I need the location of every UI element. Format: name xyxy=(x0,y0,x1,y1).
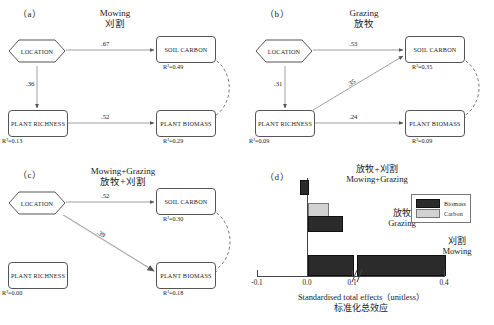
panel-a-soil-carbon-label: SOIL CARBON xyxy=(164,46,207,53)
panel-a-plant-richness-label: PLANT RICHNESS xyxy=(11,120,65,127)
panel-b-node-plant-richness: PLANT RICHNESS xyxy=(255,110,315,137)
panel-d-tick-1 xyxy=(307,270,308,276)
panel-a-location-label: LOCATION xyxy=(21,48,54,55)
panel-b-node-plant-biomass: PLANT BIOMASS xyxy=(405,110,465,137)
panel-d-bar-chart: （d） 放牧+刈割 Mowing+Grazing 放牧 Grazing 刈割 M… xyxy=(247,158,494,325)
panel-c-soil-carbon-label: SOIL CARBON xyxy=(164,198,207,205)
panel-c-edges xyxy=(0,158,247,325)
panel-c-path-location-soil-carbon: .52 xyxy=(101,192,110,199)
panel-a-plant-biomass-label: PLANT BIOMASS xyxy=(160,120,211,127)
panel-b-grazing: （b） Grazing 放牧 LOCATION PLANT RICHNESS xyxy=(247,0,494,158)
panel-d-tick-3 xyxy=(444,270,445,276)
panel-d-ticklabel-1: 0.0 xyxy=(288,279,326,287)
panel-a-r2-plant-biomass: R²=0.29 xyxy=(163,137,183,144)
panel-d-ticklabel-2: 0.1 xyxy=(333,279,371,287)
panel-a-mowing: （a） Mowing 刈割 LOCATION PLANT RICHNESS R xyxy=(0,0,247,158)
panel-a-r2-soil-carbon: R²=0.49 xyxy=(163,63,183,70)
panel-b-node-soil-carbon: SOIL CARBON xyxy=(405,36,465,63)
panel-b-location-label: LOCATION xyxy=(268,48,301,55)
panel-b-path-richness-biomass: .24 xyxy=(349,113,358,120)
panel-d-group-label-en-0: Mowing+Grazing xyxy=(307,174,447,184)
panel-c-r2-soil-carbon: R²=0.30 xyxy=(163,215,183,222)
panel-d-ticklabel-3: 0.4 xyxy=(425,279,463,287)
panel-b-plant-biomass-label: PLANT BIOMASS xyxy=(409,120,460,127)
panel-d-bar-biomass-mowing-grazing xyxy=(300,180,309,195)
panel-d-xlabel-cn: 标准化总效应 xyxy=(247,303,475,314)
panel-b-soil-carbon-label: SOIL CARBON xyxy=(413,46,456,53)
panel-d-bar-biomass-mowing-right xyxy=(357,255,446,276)
panel-c-node-plant-biomass: PLANT BIOMASS xyxy=(156,262,216,289)
legend-label-carbon: Carbon xyxy=(444,211,463,217)
panel-c-location-label: LOCATION xyxy=(21,200,54,207)
legend-swatch-carbon-icon xyxy=(416,209,440,218)
panel-b-r2-plant-richness: R²=0.09 xyxy=(249,137,269,144)
panel-a-node-soil-carbon: SOIL CARBON xyxy=(156,36,216,63)
legend-label-biomass: Biomass xyxy=(444,201,466,207)
panel-b-path-location-soil-carbon: .53 xyxy=(349,40,358,47)
legend-swatch-biomass-icon xyxy=(416,199,440,208)
panel-a-node-plant-biomass: PLANT BIOMASS xyxy=(156,110,216,137)
panel-b-node-location: LOCATION xyxy=(255,39,313,63)
panel-c-r2-plant-richness: R²=0.00 xyxy=(2,289,22,296)
panel-c-mowing-grazing: （c） Mowing+Grazing 放牧+刈割 LOCATION PLANT … xyxy=(0,158,247,325)
panel-c-node-location: LOCATION xyxy=(8,191,66,215)
panel-c-node-soil-carbon: SOIL CARBON xyxy=(156,188,216,215)
panel-a-node-plant-richness: PLANT RICHNESS xyxy=(8,110,68,137)
panel-d-xlabel-en: Standardised total effects（unitless） xyxy=(247,292,475,303)
panel-b-plant-richness-label: PLANT RICHNESS xyxy=(258,120,312,127)
panel-d-tick-0 xyxy=(257,270,258,276)
panel-d-ticklabel-0: -0.1 xyxy=(238,279,276,287)
panel-a-path-location-soil-carbon: .67 xyxy=(101,40,110,47)
panel-d-bar-biomass-grazing xyxy=(308,216,343,232)
panel-a-node-location: LOCATION xyxy=(8,39,66,63)
panel-b-r2-soil-carbon: R²=0.35 xyxy=(412,63,432,70)
panel-c-node-plant-richness: PLANT RICHNESS xyxy=(8,262,68,289)
legend-item-carbon: Carbon xyxy=(416,209,466,218)
panel-a-path-richness-biomass: .52 xyxy=(101,113,110,120)
panel-c-plant-richness-label: PLANT RICHNESS xyxy=(11,272,65,279)
legend-item-biomass: Biomass xyxy=(416,199,466,208)
panel-a-path-location-plant-richness: .36 xyxy=(26,80,35,87)
panel-c-r2-plant-biomass: R²=0.18 xyxy=(163,289,183,296)
panel-d-group-label-cn-0: 放牧+刈割 xyxy=(307,164,447,174)
panel-a-r2-plant-richness: R²=0.13 xyxy=(2,137,22,144)
panel-c-plant-biomass-label: PLANT BIOMASS xyxy=(160,272,211,279)
panel-b-r2-plant-biomass: R²=0.09 xyxy=(412,137,432,144)
panel-d-letter: （d） xyxy=(265,170,289,183)
panel-b-path-location-plant-richness: .31 xyxy=(274,80,283,87)
panel-d-group-label-cn-2: 刈割 xyxy=(422,236,492,246)
panel-d-legend: Biomass Carbon xyxy=(411,194,471,223)
